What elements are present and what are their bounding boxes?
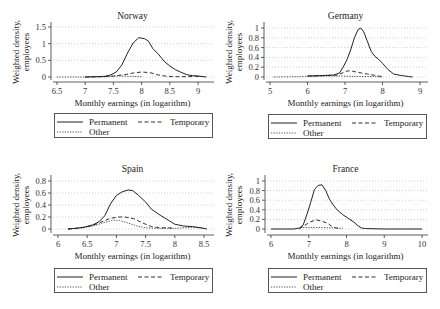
series-line-permanent (68, 190, 207, 229)
legend-label: Temporary (170, 117, 209, 127)
x-tick-label: 5 (268, 86, 272, 96)
plot-area: 00.20.40.60.8156789 (213, 0, 440, 112)
solid-line-icon (271, 118, 297, 128)
x-tick-label: 10 (418, 239, 427, 249)
legend: Permanent Temporary Other (54, 113, 213, 138)
y-tick-label: 0.6 (249, 195, 260, 205)
y-tick-label: 0 (42, 224, 46, 234)
x-tick-label: 7 (307, 239, 311, 249)
panel-germany: Germany Weighted density, employees 00.2… (213, 0, 440, 156)
legend: Permanent Temporary Other (268, 268, 427, 293)
x-tick-label: 8.5 (199, 239, 210, 249)
series-line-other (68, 220, 204, 229)
y-tick-label: 1 (256, 176, 260, 186)
legend: Permanent Temporary Other (268, 114, 427, 139)
legend-label: Other (303, 128, 324, 138)
y-tick-label: 0.6 (248, 43, 259, 53)
y-tick-label: 0.4 (248, 52, 259, 62)
legend-label: Temporary (170, 272, 209, 282)
x-tick-label: 7 (114, 239, 118, 249)
panel-spain: Spain Weighted density, employees 00.20.… (0, 153, 227, 309)
solid-line-icon (271, 272, 297, 282)
y-tick-label: 0.8 (35, 176, 46, 186)
x-tick-label: 6.5 (82, 239, 93, 249)
legend-label: Permanent (89, 117, 128, 127)
legend-label: Permanent (89, 272, 128, 282)
x-tick-label: 8.5 (164, 86, 175, 96)
y-tick-label: 0 (255, 72, 259, 82)
x-axis-label: Monthly earnings (in logarithm) (264, 98, 427, 108)
x-axis-label: Monthly earnings (in logarithm) (51, 98, 214, 108)
dotted-line-icon (57, 282, 83, 292)
y-tick-label: 0.2 (35, 212, 46, 222)
legend: Permanent Temporary Other (54, 268, 213, 293)
y-tick-label: 1 (42, 39, 46, 49)
x-tick-label: 6.5 (52, 86, 63, 96)
dotted-line-icon (57, 127, 83, 137)
y-tick-label: 0 (256, 224, 260, 234)
x-tick-label: 8 (173, 239, 177, 249)
legend-label: Other (89, 282, 110, 292)
plot-area: 00.20.40.60.866.577.588.5 (0, 153, 227, 265)
y-tick-label: 0.5 (35, 55, 46, 65)
series-line-permanent (271, 185, 422, 229)
x-tick-label: 7 (83, 86, 87, 96)
x-tick-label: 8 (139, 86, 143, 96)
x-tick-label: 8 (344, 239, 348, 249)
series-line-other (274, 76, 383, 77)
x-tick-label: 9 (196, 86, 200, 96)
plot-area: 00.511.56.577.588.59 (0, 0, 227, 112)
series-line-permanent (308, 28, 413, 77)
dashed-line-icon (352, 118, 378, 128)
legend-label: Permanent (303, 118, 342, 128)
x-tick-label: 7 (343, 86, 347, 96)
x-tick-label: 6 (56, 239, 60, 249)
y-tick-label: 1.5 (35, 22, 46, 32)
x-tick-label: 7.5 (140, 239, 151, 249)
dotted-line-icon (271, 128, 297, 138)
y-tick-label: 0.2 (249, 214, 260, 224)
y-tick-label: 0.8 (249, 186, 260, 196)
solid-line-icon (57, 117, 83, 127)
y-tick-label: 0.2 (248, 62, 259, 72)
x-axis-label: Monthly earnings (in logarithm) (51, 251, 214, 261)
y-tick-label: 0 (42, 72, 46, 82)
dotted-line-icon (271, 282, 297, 292)
legend-label: Permanent (303, 272, 342, 282)
solid-line-icon (57, 272, 83, 282)
x-tick-label: 6 (269, 239, 273, 249)
x-tick-label: 6 (305, 86, 309, 96)
x-tick-label: 7.5 (108, 86, 119, 96)
panel-norway: Norway Weighted density, employees 00.51… (0, 0, 227, 156)
legend-label: Other (89, 127, 110, 137)
x-tick-label: 9 (418, 86, 422, 96)
x-tick-label: 8 (380, 86, 384, 96)
dashed-line-icon (138, 272, 164, 282)
plot-area: 00.20.40.60.81678910 (213, 153, 440, 265)
legend-label: Other (303, 282, 324, 292)
x-tick-label: 9 (382, 239, 386, 249)
y-tick-label: 0.8 (248, 33, 259, 43)
dashed-line-icon (352, 272, 378, 282)
y-tick-label: 0.4 (35, 200, 46, 210)
y-tick-label: 0.6 (35, 188, 46, 198)
y-tick-label: 0.4 (249, 205, 260, 215)
dashed-line-icon (138, 117, 164, 127)
legend-label: Temporary (384, 272, 423, 282)
legend-label: Temporary (384, 118, 423, 128)
y-tick-label: 1 (255, 23, 259, 33)
panel-france: France Weighted density, employees 00.20… (213, 153, 440, 309)
x-axis-label: Monthly earnings (in logarithm) (264, 251, 427, 261)
